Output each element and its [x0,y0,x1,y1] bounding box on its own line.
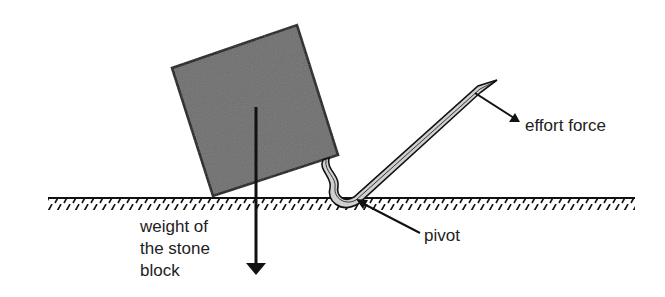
effort-arrow [475,93,520,122]
lever-diagram: effort force pivot weight of the stone b… [0,0,665,297]
effort-force-label: effort force [525,116,606,135]
weight-label-line3: block [140,261,180,280]
pivot-label: pivot [424,226,460,245]
crowbar [322,80,497,207]
weight-label-line2: the stone [140,239,210,258]
weight-label-line1: weight of [139,217,208,236]
